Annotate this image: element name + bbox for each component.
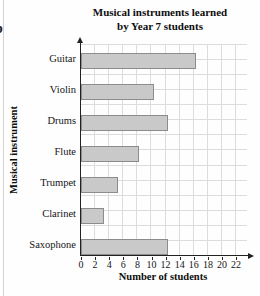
chart-title: Musical instruments learned by Year 7 st… bbox=[58, 5, 260, 33]
cropped-question-label: b bbox=[0, 21, 3, 37]
bar-clarinet bbox=[81, 208, 104, 224]
bar-saxophone bbox=[81, 239, 168, 255]
chart-title-line2: by Year 7 students bbox=[58, 19, 260, 33]
y-axis-arrow-icon bbox=[77, 37, 83, 43]
bar-flute bbox=[81, 146, 139, 162]
category-label-clarinet: Clarinet bbox=[0, 208, 77, 219]
plot-area bbox=[81, 44, 247, 256]
chart-title-line1: Musical instruments learned bbox=[58, 5, 260, 19]
category-label-saxophone: Saxophone bbox=[0, 239, 77, 250]
x-tick-label-22: 22 bbox=[228, 259, 244, 270]
bar-trumpet bbox=[81, 177, 118, 193]
bar-drums bbox=[81, 115, 168, 131]
y-axis-title: Musical instrument bbox=[8, 106, 19, 194]
category-label-violin: Violin bbox=[0, 84, 77, 95]
x-axis-title: Number of students bbox=[58, 271, 260, 282]
y-axis-line bbox=[80, 42, 81, 255]
x-axis-arrow-icon bbox=[248, 253, 254, 259]
bar-guitar bbox=[81, 53, 196, 69]
category-label-guitar: Guitar bbox=[0, 53, 77, 64]
bar-violin bbox=[81, 84, 154, 100]
chart-screenshot: b Musical instruments learned by Year 7 … bbox=[0, 0, 260, 296]
